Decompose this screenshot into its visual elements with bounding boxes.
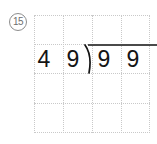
grid-line-vertical [149,15,150,133]
grid-line-vertical [92,15,93,133]
grid-line-horizontal [34,44,150,45]
grid-line-horizontal [34,73,150,74]
grid-line-horizontal [34,15,150,16]
problem-number-badge: 15 [9,13,27,31]
grid-line-vertical [121,15,122,133]
grid-line-horizontal [34,103,150,104]
grid-line-vertical [63,15,64,133]
answer-grid [34,15,150,133]
grid-line-vertical [34,15,35,133]
worksheet-problem-cell: 15 4 9 9 9 [0,0,157,144]
grid-line-horizontal [34,132,150,133]
